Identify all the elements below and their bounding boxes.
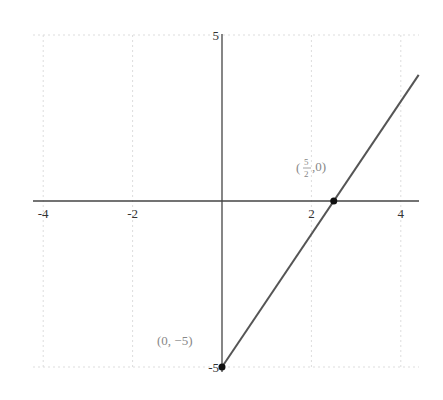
x-tick-label: 4 [398,206,405,221]
x-tick-label: 2 [308,206,315,221]
x-tick-label: -4 [38,206,49,221]
annotations: ( 5 2 ,0) (0, −5) [157,157,326,348]
chart-canvas: -4-2245-5 ( 5 2 ,0) (0, −5) [0,0,443,400]
svg-text:,0): ,0) [312,159,326,174]
y-tick-label: 5 [213,28,220,43]
series-line [222,75,419,367]
svg-text:2: 2 [304,169,309,179]
svg-text:5: 5 [304,157,309,167]
svg-text:(: ( [296,160,300,175]
y-tick-label: -5 [208,360,219,375]
y-intercept-label: (0, −5) [157,333,193,348]
axes [33,34,419,372]
data-point [219,364,226,371]
line-y-equals-2x-minus-5 [222,75,419,367]
x-tick-label: -2 [127,206,138,221]
data-point [330,198,337,205]
